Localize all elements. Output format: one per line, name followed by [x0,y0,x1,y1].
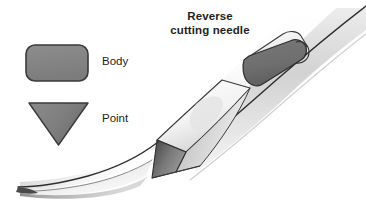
legend-item-point [29,103,88,145]
reverse-cutting-needle-figure: Reversecutting needle Body Point [0,0,366,202]
figure-title: Reversecutting needle [150,10,270,37]
legend-label-point: Point [102,112,128,125]
body-swatch [26,45,88,81]
figure-title-line1: Reverse [187,10,232,22]
legend-label-body: Body [102,55,128,68]
figure-title-line2: cutting needle [170,24,249,36]
point-swatch [29,103,88,145]
legend-item-body [26,45,88,81]
